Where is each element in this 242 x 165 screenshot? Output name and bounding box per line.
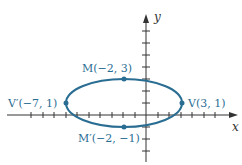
point-M [122, 77, 127, 82]
x-axis-label: x [232, 120, 239, 134]
label-M-prime: M′(−2, −1) [78, 132, 140, 145]
label-M: M(−2, 3) [82, 62, 132, 75]
ellipse-diagram: M(−2, 3) M′(−2, −1) V′(−7, 1) V(3, 1) y … [0, 0, 242, 165]
point-V-prime [64, 101, 69, 106]
label-V: V(3, 1) [187, 97, 226, 110]
label-V-prime: V′(−7, 1) [7, 97, 57, 110]
point-M-prime [122, 125, 127, 130]
y-axis-arrow-icon [143, 14, 149, 23]
point-V [180, 101, 185, 106]
x-axis-arrow-icon [229, 112, 238, 118]
ellipse-curve [66, 79, 182, 127]
y-axis-label: y [153, 10, 161, 24]
